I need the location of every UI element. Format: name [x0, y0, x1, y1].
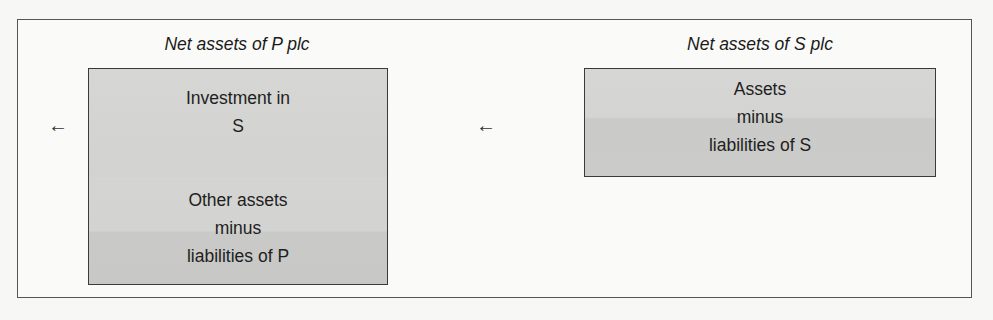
subsidiary-title: Net assets of S plc [687, 34, 833, 54]
subsidiary-arrow-left-icon: ← [476, 115, 496, 135]
parent-investment-label: Investment in S [186, 84, 290, 140]
subsidiary-net-assets-box: Assets minus liabilities of S [584, 68, 936, 177]
parent-arrow-left-icon: ← [48, 115, 68, 135]
parent-investment-box: Investment in S [88, 68, 388, 178]
diagram-canvas: Net assets of P plc Net assets of S plc … [0, 0, 993, 320]
subsidiary-net-assets-label: Assets minus liabilities of S [709, 75, 811, 159]
parent-other-net-assets-box: Other assets minus liabilities of P [88, 177, 388, 285]
parent-other-net-assets-label: Other assets minus liabilities of P [187, 186, 289, 270]
parent-title: Net assets of P plc [164, 34, 309, 54]
